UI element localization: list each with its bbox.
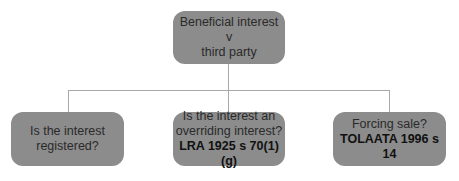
root-node: Beneficial interest v third party xyxy=(173,11,285,64)
child2-statute: LRA 1925 s 70(1)(g) xyxy=(173,139,285,169)
child2-line-2: overriding interest? xyxy=(176,124,282,139)
child2-line-1: Is the interest an xyxy=(183,109,275,124)
connector-horizontal xyxy=(68,90,390,91)
child1-line-1: Is the interest xyxy=(30,124,105,139)
child3-statute: TOLAATA 1996 s 14 xyxy=(333,132,446,162)
child-node-registered: Is the interest registered? xyxy=(11,112,124,166)
child-node-overriding: Is the interest an overriding interest? … xyxy=(173,112,285,166)
child1-line-2: registered? xyxy=(36,139,99,154)
root-line-1: Beneficial interest xyxy=(180,15,279,30)
connector-root-down xyxy=(228,64,229,91)
connector-right-down xyxy=(389,90,390,112)
root-line-2: v xyxy=(226,30,232,45)
root-line-3: third party xyxy=(201,45,257,60)
connector-left-down xyxy=(68,90,69,112)
child-node-forcing-sale: Forcing sale? TOLAATA 1996 s 14 xyxy=(333,112,446,166)
child3-line-1: Forcing sale? xyxy=(352,117,427,132)
